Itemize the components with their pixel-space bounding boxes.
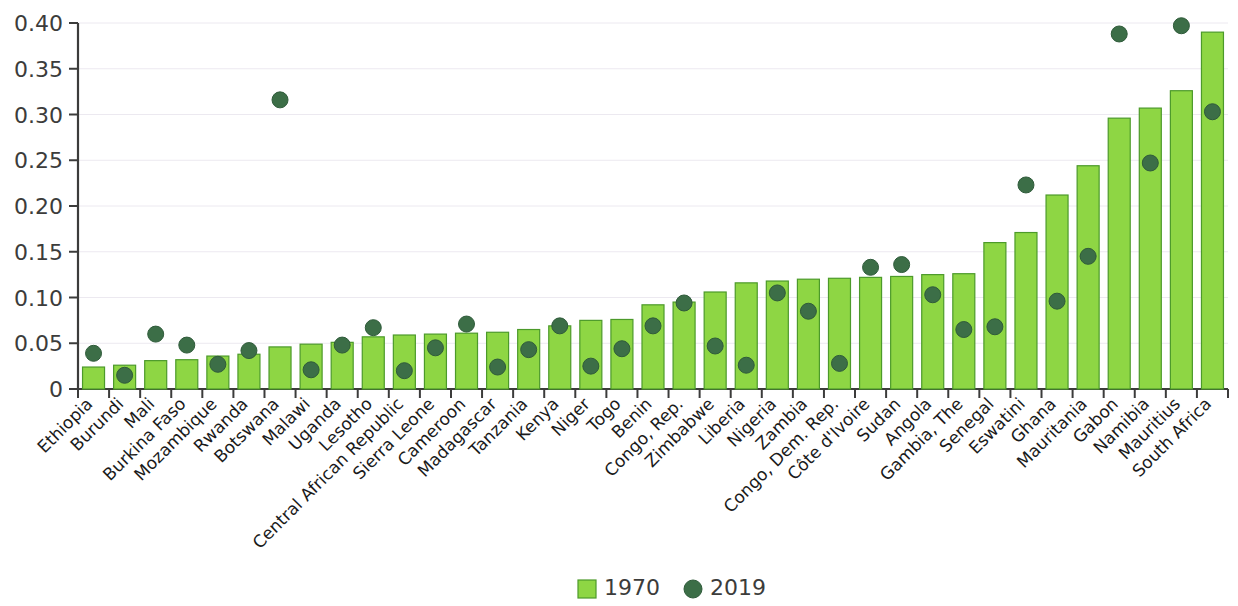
data-point[interactable] — [148, 326, 164, 342]
data-point[interactable] — [117, 367, 133, 383]
y-tick-label: 0.25 — [14, 148, 63, 173]
bar[interactable] — [1015, 233, 1037, 389]
data-point[interactable] — [769, 285, 785, 301]
data-point[interactable] — [86, 345, 102, 361]
data-point[interactable] — [272, 92, 288, 108]
data-point[interactable] — [738, 357, 754, 373]
bar[interactable] — [176, 360, 198, 389]
legend-label: 2019 — [710, 575, 766, 600]
data-point[interactable] — [1080, 248, 1096, 264]
data-point[interactable] — [583, 358, 599, 374]
data-point[interactable] — [800, 303, 816, 319]
data-point[interactable] — [396, 363, 412, 379]
data-point[interactable] — [459, 316, 475, 332]
bar[interactable] — [828, 278, 850, 389]
y-tick-label: 0.30 — [14, 103, 63, 128]
data-point[interactable] — [179, 337, 195, 353]
bar[interactable] — [1108, 118, 1130, 389]
bar[interactable] — [1046, 195, 1068, 389]
bar[interactable] — [1201, 32, 1223, 389]
bar[interactable] — [145, 361, 167, 389]
data-point[interactable] — [521, 342, 537, 358]
bar[interactable] — [580, 320, 602, 389]
bar[interactable] — [269, 347, 291, 389]
legend-label: 1970 — [604, 575, 660, 600]
bar[interactable] — [891, 276, 913, 389]
data-point[interactable] — [427, 340, 443, 356]
legend: 19702019 — [578, 575, 766, 600]
y-tick-label: 0.05 — [14, 331, 63, 356]
data-point[interactable] — [1142, 155, 1158, 171]
data-point[interactable] — [552, 318, 568, 334]
bar[interactable] — [1170, 91, 1192, 389]
bar[interactable] — [83, 367, 105, 389]
data-point[interactable] — [303, 362, 319, 378]
y-tick-label: 0.20 — [14, 194, 63, 219]
data-point[interactable] — [1018, 177, 1034, 193]
bar[interactable] — [549, 326, 571, 389]
data-point[interactable] — [707, 338, 723, 354]
legend-swatch-1970[interactable] — [578, 580, 596, 598]
data-point[interactable] — [863, 259, 879, 275]
bar[interactable] — [362, 337, 384, 389]
data-point[interactable] — [1111, 26, 1127, 42]
data-point[interactable] — [894, 257, 910, 273]
y-tick-label: 0.35 — [14, 57, 63, 82]
bar[interactable] — [984, 243, 1006, 389]
bar[interactable] — [673, 302, 695, 389]
grouped-bar-dot-chart: 00.050.100.150.200.250.300.350.40Ethiopi… — [0, 0, 1238, 606]
bar[interactable] — [797, 279, 819, 389]
data-point[interactable] — [925, 287, 941, 303]
y-tick-label: 0.40 — [14, 11, 63, 36]
data-point[interactable] — [831, 355, 847, 371]
x-tick-labels: EthiopiaBurundiMaliBurkina FasoMozambiqu… — [33, 394, 1215, 553]
bar[interactable] — [860, 277, 882, 389]
data-point[interactable] — [956, 322, 972, 338]
bar[interactable] — [1077, 166, 1099, 389]
data-point[interactable] — [1173, 18, 1189, 34]
data-point[interactable] — [1204, 104, 1220, 120]
bar[interactable] — [238, 354, 260, 389]
data-point[interactable] — [676, 295, 692, 311]
y-axis: 00.050.100.150.200.250.300.350.40 — [14, 11, 78, 402]
y-tick-label: 0.15 — [14, 240, 63, 265]
data-point[interactable] — [614, 341, 630, 357]
bar[interactable] — [393, 335, 415, 389]
y-tick-label: 0 — [49, 377, 63, 402]
x-axis — [78, 389, 1228, 398]
data-point[interactable] — [334, 337, 350, 353]
bar[interactable] — [518, 330, 540, 389]
data-point[interactable] — [1049, 293, 1065, 309]
legend-swatch-2019[interactable] — [684, 580, 702, 598]
chart-container: 00.050.100.150.200.250.300.350.40Ethiopi… — [0, 0, 1238, 606]
bar[interactable] — [456, 333, 478, 389]
data-point[interactable] — [365, 320, 381, 336]
data-point[interactable] — [210, 356, 226, 372]
bars-1970 — [83, 32, 1224, 389]
bar[interactable] — [1139, 108, 1161, 389]
data-point[interactable] — [490, 359, 506, 375]
data-point[interactable] — [241, 343, 257, 359]
data-point[interactable] — [645, 318, 661, 334]
y-tick-label: 0.10 — [14, 286, 63, 311]
data-point[interactable] — [987, 319, 1003, 335]
